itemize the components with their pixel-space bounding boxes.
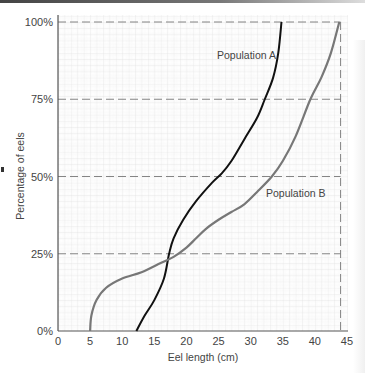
y-tick-100pct: 100% — [25, 16, 53, 28]
x-tick-30: 30 — [245, 335, 257, 347]
x-tick-5: 5 — [87, 335, 93, 347]
line-chart: 051015202530354045 0%25%50%75%100% Popul… — [0, 0, 365, 373]
y-axis-label: Percentage of eels — [14, 132, 26, 220]
y-tick-75pct: 75% — [31, 93, 53, 105]
y-tick-0pct: 0% — [37, 325, 53, 337]
x-tick-0: 0 — [55, 335, 61, 347]
plot-grid — [58, 15, 348, 331]
x-tick-15: 15 — [148, 335, 160, 347]
x-tick-40: 40 — [309, 335, 321, 347]
scan-artifact-mark — [1, 167, 4, 172]
y-tick-25pct: 25% — [31, 248, 53, 260]
y-tick-labels: 0%25%50%75%100% — [25, 16, 53, 337]
x-tick-25: 25 — [212, 335, 224, 347]
x-axis-label: Eel length (cm) — [168, 351, 239, 363]
x-tick-45: 45 — [341, 335, 353, 347]
series-label-population-b: Population B — [266, 187, 326, 199]
series-label-population-a: Population A — [217, 49, 276, 61]
x-tick-20: 20 — [180, 335, 192, 347]
x-tick-10: 10 — [116, 335, 128, 347]
x-tick-35: 35 — [277, 335, 289, 347]
x-tick-labels: 051015202530354045 — [55, 335, 353, 347]
y-tick-50pct: 50% — [31, 171, 53, 183]
